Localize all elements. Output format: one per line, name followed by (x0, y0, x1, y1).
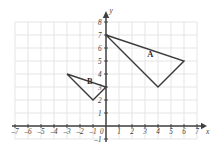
y-tick-label: 8 (98, 19, 102, 27)
y-tick-label: 2 (98, 97, 102, 105)
y-tick-label: 4 (98, 71, 102, 79)
x-tick-label: 3 (142, 128, 147, 136)
x-tick-label: –5 (36, 128, 45, 136)
y-tick-label: 1 (98, 110, 102, 118)
x-tick-label: –3 (62, 128, 71, 136)
y-tick-label: 5 (98, 58, 102, 66)
shape-labels-layer: AB (87, 50, 153, 86)
axis-names-layer: xy (109, 6, 211, 136)
plot-svg: –7–6–5–4–3–2–101234567–112345678 AB xy (0, 0, 216, 143)
x-tick-label: –6 (23, 128, 32, 136)
y-tick-label: 6 (98, 45, 102, 53)
x-tick-label: 4 (156, 128, 160, 136)
shape-label-A: A (147, 50, 153, 59)
x-axis-name: x (205, 127, 210, 136)
x-tick-label: –2 (75, 128, 84, 136)
y-axis-arrow (103, 11, 109, 18)
shape-label-B: B (87, 77, 93, 86)
x-tick-label: 2 (130, 128, 134, 136)
coordinate-plane-figure: –7–6–5–4–3–2–101234567–112345678 AB xy (0, 0, 216, 143)
shapes-layer (67, 35, 184, 100)
x-tick-label: 7 (195, 128, 199, 136)
x-tick-label: 1 (117, 128, 121, 136)
y-tick-label: 7 (98, 32, 102, 40)
x-tick-label: –7 (10, 128, 19, 136)
y-axis-name: y (109, 6, 114, 15)
x-tick-label: 6 (182, 128, 186, 136)
x-tick-label: 5 (169, 128, 173, 136)
x-tick-label: –4 (49, 128, 58, 136)
y-tick-label: –1 (93, 136, 101, 143)
